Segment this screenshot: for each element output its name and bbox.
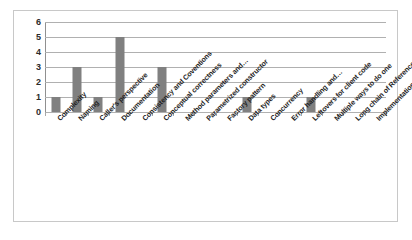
y-axis-tick-labels: 0123456 bbox=[14, 22, 41, 112]
x-axis-category-label: Implementation vs. Interface bbox=[375, 117, 380, 122]
x-axis-category-label: Concurrency bbox=[269, 117, 274, 122]
x-axis-category-label: Data types bbox=[247, 117, 252, 122]
x-axis-tick bbox=[45, 112, 46, 116]
y-axis-tick-label: 5 bbox=[19, 33, 41, 42]
x-axis-category-label: Parametrized constructor bbox=[205, 117, 210, 122]
x-axis-category-label: Error handling and… bbox=[290, 117, 295, 122]
x-axis-category-label: Method parameters and… bbox=[184, 117, 189, 122]
x-axis-category-label: Conceptual correctness bbox=[162, 117, 167, 122]
x-axis-category-label: Multiple ways to do one bbox=[333, 117, 338, 122]
x-axis-category-label: Documentation bbox=[120, 117, 125, 122]
bar[interactable] bbox=[51, 97, 60, 112]
y-axis-tick-label: 1 bbox=[19, 93, 41, 102]
x-axis-category-label: Consistency and Coventions bbox=[141, 117, 146, 122]
x-axis-category-label: Factory pattern bbox=[226, 117, 231, 122]
bar-slot bbox=[45, 22, 66, 112]
y-axis-tick-label: 6 bbox=[19, 18, 41, 27]
x-axis-category-label: Naming bbox=[77, 117, 82, 122]
x-axis-category-label: Caller's perspective bbox=[98, 117, 103, 122]
x-axis-category-label: Leftovers for client code bbox=[311, 117, 316, 122]
chart-container: 0123456 ComplexityNamingCaller's perspec… bbox=[13, 10, 398, 222]
y-axis-tick-label: 3 bbox=[19, 63, 41, 72]
x-axis-category-label: Long chain of References bbox=[354, 117, 359, 122]
y-axis-tick-label: 2 bbox=[19, 78, 41, 87]
bar-slot bbox=[88, 22, 109, 112]
y-axis-tick-label: 4 bbox=[19, 48, 41, 57]
y-axis-tick-label: 0 bbox=[19, 108, 41, 117]
x-axis-category-label: Complexity bbox=[56, 117, 61, 122]
x-axis-category-labels: ComplexityNamingCaller's perspectiveDocu… bbox=[45, 117, 386, 217]
